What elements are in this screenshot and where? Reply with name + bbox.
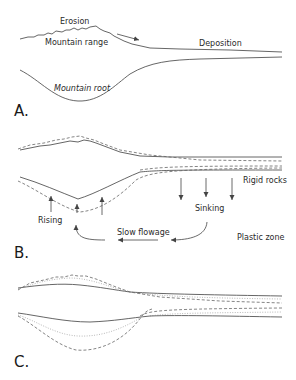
mountain-root-line <box>20 57 282 101</box>
isostasy-diagram: Erosion Mountain range Deposition Mounta… <box>0 0 296 380</box>
rising-label: Rising <box>38 216 62 225</box>
panel-c: C. <box>14 275 282 371</box>
slow-flowage-label: Slow flowage <box>117 228 170 237</box>
c-root-dotted-line <box>18 315 140 336</box>
c-root-dashed-line <box>18 309 152 350</box>
panel-b-label: B. <box>14 244 29 262</box>
surface-solid-line <box>20 140 282 157</box>
panel-a: Erosion Mountain range Deposition Mounta… <box>14 17 282 120</box>
mountain-range-label: Mountain range <box>45 38 108 47</box>
rigid-rocks-label: Rigid rocks <box>243 176 287 185</box>
plastic-zone-label: Plastic zone <box>237 233 285 242</box>
flow-rise-arrow <box>76 225 105 240</box>
panel-b: Rigid rocks Sinking Rising Slow flowage … <box>14 136 287 262</box>
panel-a-label: A. <box>14 102 29 120</box>
c-surface-dotted-line <box>18 278 282 299</box>
sinking-label: Sinking <box>195 204 224 213</box>
c-root-solid-line <box>18 313 282 322</box>
panel-c-label: C. <box>14 353 29 371</box>
erosion-label: Erosion <box>60 17 89 26</box>
mountain-root-label: Mountain root <box>54 84 111 93</box>
root-dashed-line <box>18 168 282 212</box>
flow-sink-arrow <box>171 222 207 240</box>
deposition-label: Deposition <box>199 39 242 48</box>
